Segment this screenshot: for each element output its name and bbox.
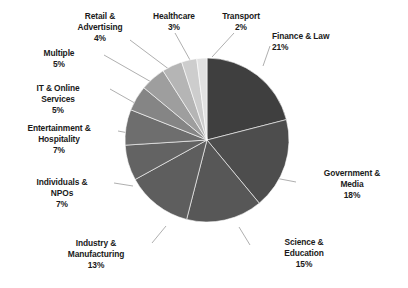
slice-label-name-cont: Media (340, 179, 363, 189)
slice-label-name: Government & (324, 168, 381, 178)
slice-label-name-cont: Services (41, 94, 75, 104)
slice-label-healthcare: Healthcare3% (138, 11, 210, 33)
slice-label-name-cont: Manufacturing (68, 249, 124, 259)
leader-line-science-education (239, 227, 250, 245)
slice-label-name-cont: Advertising (78, 22, 123, 32)
slice-label-name: Entertainment & (27, 123, 90, 133)
slice-label-percent: 13% (40, 260, 152, 271)
slice-label-percent: 2% (205, 22, 277, 33)
slice-label-percent: 21% (272, 42, 392, 53)
leader-line-retail-advertising (130, 40, 170, 70)
slice-label-name: IT & Online (36, 83, 79, 93)
slice-label-entertainment-hospitality: Entertainment &Hospitality7% (0, 123, 118, 155)
slice-label-name: Retail & (85, 11, 115, 21)
slice-label-industry-manufacturing: Industry &Manufacturing13% (40, 238, 152, 270)
slice-label-percent: 18% (298, 190, 406, 201)
slice-label-name-cont: Education (284, 248, 324, 258)
slice-label-name: Industry & (76, 238, 116, 248)
slice-label-percent: 4% (58, 33, 142, 44)
slice-label-transport: Transport2% (205, 11, 277, 33)
slice-label-percent: 15% (252, 259, 356, 270)
leader-line-industry-manufacturing (152, 226, 166, 243)
slice-label-name: Finance & Law (272, 31, 329, 41)
leader-line-healthcare (175, 33, 190, 60)
slice-label-name: Multiple (44, 48, 75, 58)
slice-label-individuals-npos: Individuals &NPOs7% (10, 177, 114, 209)
slice-label-government-media: Government &Media18% (298, 168, 406, 200)
slice-label-percent: 7% (10, 199, 114, 210)
slice-label-multiple: Multiple5% (14, 48, 104, 70)
slice-label-percent: 3% (138, 22, 210, 33)
slice-label-retail-advertising: Retail &Advertising4% (58, 11, 142, 43)
pie-chart: Finance & Law21%Government &Media18%Scie… (0, 0, 408, 288)
slice-label-name-cont: NPOs (51, 188, 73, 198)
leader-line-multiple (104, 55, 153, 83)
slice-label-name: Science & (284, 237, 323, 247)
slice-label-name: Healthcare (153, 11, 195, 21)
slice-label-percent: 5% (6, 105, 110, 116)
slice-label-percent: 7% (0, 145, 118, 156)
leader-line-finance-law (263, 46, 270, 66)
slice-label-it-online-services: IT & OnlineServices5% (6, 83, 110, 115)
slice-label-percent: 5% (14, 59, 104, 70)
slice-label-finance-law: Finance & Law21% (272, 31, 392, 53)
slice-label-name: Transport (222, 11, 260, 21)
slice-label-name: Individuals & (37, 177, 88, 187)
leader-line-transport (212, 33, 234, 57)
leader-line-individuals-npos (114, 183, 133, 186)
slice-label-name-cont: Hospitality (38, 134, 80, 144)
slice-label-science-education: Science &Education15% (252, 237, 356, 269)
